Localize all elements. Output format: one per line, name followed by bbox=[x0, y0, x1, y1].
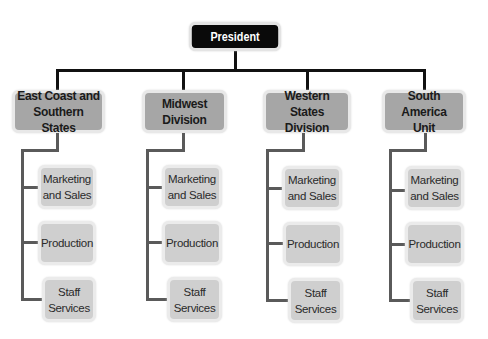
president-stem bbox=[234, 48, 237, 71]
sub-spine-1 bbox=[21, 149, 24, 301]
president-label: President bbox=[210, 29, 259, 45]
division-label: South America Unit bbox=[385, 88, 463, 136]
dept-node-production: Production bbox=[162, 221, 222, 265]
dept-node-staff-services: Staff Services bbox=[410, 278, 464, 323]
dept-node-marketing-sales: Marketing and Sales bbox=[282, 166, 342, 210]
branch-1-2 bbox=[21, 241, 39, 244]
dept-label: Production bbox=[409, 236, 461, 252]
sub-elbow-2 bbox=[146, 149, 185, 152]
dept-label: Marketing and Sales bbox=[168, 171, 216, 203]
sub-spine-4 bbox=[389, 149, 392, 302]
branch-1-1 bbox=[21, 186, 39, 189]
dept-label: Staff Services bbox=[48, 284, 90, 316]
dept-label: Marketing and Sales bbox=[43, 171, 91, 203]
dept-label: Marketing and Sales bbox=[288, 172, 336, 204]
dept-node-staff-services: Staff Services bbox=[42, 277, 96, 322]
sub-spine-3 bbox=[266, 149, 269, 302]
branch-3-2 bbox=[266, 242, 284, 245]
president-node: President bbox=[189, 22, 281, 51]
branch-4-3 bbox=[389, 299, 411, 302]
dept-label: Production bbox=[287, 236, 339, 252]
division-node-east-coast: East Coast and Southern States bbox=[12, 90, 105, 133]
dept-node-production: Production bbox=[405, 222, 464, 266]
sub-elbow-3 bbox=[266, 149, 305, 152]
dept-label: Production bbox=[166, 235, 218, 251]
branch-2-3 bbox=[146, 298, 168, 301]
sub-elbow-1 bbox=[21, 149, 59, 152]
dept-label: Marketing and Sales bbox=[410, 172, 458, 204]
dept-node-production: Production bbox=[283, 222, 343, 266]
sub-spine-2 bbox=[146, 149, 149, 301]
division-node-western-states: Western States Division bbox=[263, 90, 351, 133]
division-drop-2 bbox=[182, 69, 185, 91]
dept-node-marketing-sales: Marketing and Sales bbox=[162, 165, 222, 209]
dept-node-production: Production bbox=[38, 221, 96, 265]
division-node-midwest: Midwest Division bbox=[142, 90, 227, 133]
sub-elbow-4 bbox=[389, 149, 427, 152]
dept-node-staff-services: Staff Services bbox=[167, 277, 222, 322]
dept-label: Staff Services bbox=[174, 284, 216, 316]
division-label: Western States Division bbox=[266, 88, 348, 136]
dept-node-staff-services: Staff Services bbox=[288, 278, 343, 323]
branch-1-3 bbox=[21, 298, 43, 301]
dept-label: Staff Services bbox=[416, 285, 458, 317]
division-label: East Coast and Southern States bbox=[15, 88, 102, 136]
dept-label: Production bbox=[41, 235, 93, 251]
dept-node-marketing-sales: Marketing and Sales bbox=[38, 165, 96, 209]
dept-label: Staff Services bbox=[295, 285, 337, 317]
division-bus bbox=[56, 69, 426, 72]
branch-3-3 bbox=[266, 299, 288, 302]
dept-node-marketing-sales: Marketing and Sales bbox=[405, 166, 464, 210]
division-label: Midwest Division bbox=[162, 96, 207, 128]
division-node-south-america: South America Unit bbox=[382, 90, 466, 133]
